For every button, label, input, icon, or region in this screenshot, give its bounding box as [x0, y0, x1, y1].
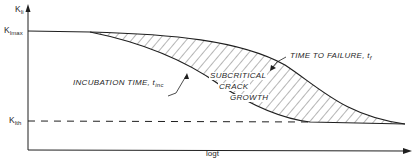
- incubation-time-label: INCUBATION TIME, tinc: [73, 79, 164, 88]
- x-axis-label: logt: [206, 150, 219, 158]
- kmax-label: KImax: [4, 26, 23, 36]
- kth-label: KIth: [9, 116, 21, 126]
- diagram-canvas: [0, 0, 417, 160]
- region-label-line-3: GROWTH: [229, 94, 269, 102]
- kii-vs-logt-diagram: KIi KImax KIth logt INCUBATION TIME, tin…: [0, 0, 417, 160]
- kth-threshold-line: [28, 121, 310, 122]
- region-label-line-1: SUBCRITICAL: [209, 72, 267, 80]
- y-axis-arrow-icon: [26, 4, 31, 12]
- y-axis-label: KIi: [15, 5, 24, 15]
- region-label-line-2: CRACK: [218, 83, 250, 91]
- time-to-failure-label: TIME TO FAILURE, tf: [290, 52, 372, 61]
- incubation-arrow-icon: [184, 73, 189, 79]
- x-axis-arrow-icon: [403, 148, 412, 154]
- incubation-leader-line: [168, 76, 186, 96]
